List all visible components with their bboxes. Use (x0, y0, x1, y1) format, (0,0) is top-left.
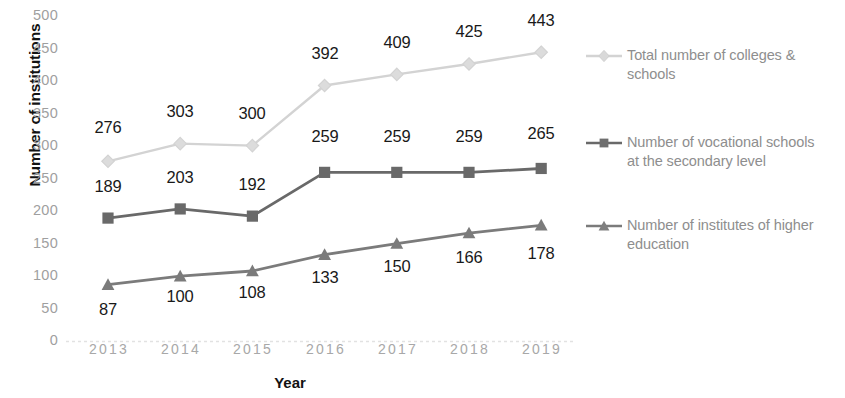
data-label-vocational-2018: 259 (434, 127, 504, 146)
data-label-higher-2018: 166 (434, 248, 504, 267)
y-tick-300: 300 (16, 137, 58, 153)
x-tick-2014: 2014 (141, 341, 221, 357)
y-tick-0: 0 (16, 332, 58, 348)
data-point-marker (318, 79, 330, 91)
legend-item-vocational[interactable]: Number of vocational schools at the seco… (586, 133, 844, 171)
data-point-marker (391, 167, 402, 178)
x-tick-2015: 2015 (213, 341, 293, 357)
data-label-total-2014: 303 (145, 102, 215, 121)
data-point-marker (318, 248, 331, 260)
data-point-marker (463, 227, 476, 239)
data-point-marker (535, 219, 548, 231)
y-tick-100: 100 (16, 267, 58, 283)
legend-label-higher-line1: Number of institutes of higher (627, 217, 813, 233)
data-label-total-2017: 409 (362, 33, 432, 52)
data-label-total-2016: 392 (290, 44, 360, 63)
diamond-marker-icon (586, 48, 622, 64)
data-point-marker (390, 237, 403, 249)
legend-label-total-line2: schools (627, 66, 675, 82)
data-label-total-2018: 425 (434, 22, 504, 41)
data-label-vocational-2016: 259 (290, 127, 360, 146)
data-point-marker (247, 211, 258, 222)
x-tick-2017: 2017 (358, 341, 438, 357)
y-tick-450: 450 (16, 40, 58, 56)
y-tick-200: 200 (16, 202, 58, 218)
data-point-marker (102, 155, 114, 167)
line-chart: Number of institutions Year 500 450 400 … (0, 0, 845, 398)
legend-label-vocational-line2: at the secondary level (627, 153, 766, 169)
data-point-marker (102, 278, 115, 290)
data-point-marker (246, 139, 258, 151)
data-point-marker (319, 167, 330, 178)
y-tick-500: 500 (16, 7, 58, 23)
x-tick-2019: 2019 (502, 341, 582, 357)
data-label-higher-2013: 87 (73, 300, 143, 319)
legend-label-vocational-line1: Number of vocational schools (627, 134, 814, 150)
legend-label-vocational: Number of vocational schools at the seco… (627, 133, 814, 171)
data-point-marker (102, 212, 113, 223)
data-label-higher-2014: 100 (145, 287, 215, 306)
data-point-marker (175, 203, 186, 214)
legend-label-total: Total number of colleges & schools (627, 46, 795, 84)
data-label-total-2019: 443 (506, 11, 576, 30)
legend-label-higher-line2: education (627, 236, 689, 252)
data-label-vocational-2013: 189 (73, 177, 143, 196)
data-label-vocational-2017: 259 (362, 127, 432, 146)
x-tick-2018: 2018 (430, 341, 510, 357)
data-label-higher-2017: 150 (362, 257, 432, 276)
data-point-marker (463, 58, 475, 70)
data-label-higher-2019: 178 (506, 244, 576, 263)
triangle-marker-icon (586, 218, 622, 234)
y-tick-350: 350 (16, 105, 58, 121)
data-point-marker (174, 270, 187, 282)
y-tick-150: 150 (16, 235, 58, 251)
y-tick-400: 400 (16, 72, 58, 88)
data-point-marker (536, 163, 547, 174)
data-label-vocational-2014: 203 (145, 168, 215, 187)
data-label-total-2015: 300 (217, 104, 287, 123)
legend-label-total-line1: Total number of colleges & (627, 47, 795, 63)
data-point-marker (535, 46, 547, 58)
legend-item-higher[interactable]: Number of institutes of higher education (586, 216, 844, 254)
data-label-higher-2015: 108 (217, 283, 287, 302)
x-tick-2013: 2013 (69, 341, 149, 357)
x-tick-2016: 2016 (286, 341, 366, 357)
data-point-marker (463, 167, 474, 178)
data-label-vocational-2015: 192 (217, 175, 287, 194)
data-label-total-2013: 276 (73, 118, 143, 137)
data-point-marker (246, 265, 259, 277)
data-label-higher-2016: 133 (290, 268, 360, 287)
square-marker-icon (586, 135, 622, 151)
x-axis-title: Year (0, 374, 580, 391)
legend-label-higher: Number of institutes of higher education (627, 216, 813, 254)
legend-item-total[interactable]: Total number of colleges & schools (586, 46, 844, 84)
data-point-marker (391, 68, 403, 80)
y-tick-250: 250 (16, 170, 58, 186)
data-label-vocational-2019: 265 (506, 124, 576, 143)
y-tick-50: 50 (16, 300, 58, 316)
data-point-marker (174, 137, 186, 149)
